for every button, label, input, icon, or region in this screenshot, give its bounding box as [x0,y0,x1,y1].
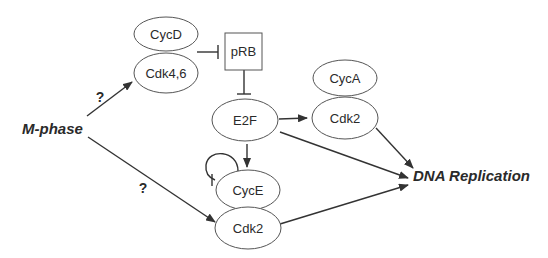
edge-e2f-to-cdk2a [279,118,307,119]
node-cyca: CycA [313,60,377,96]
edge-mphase-to-cdk46 [87,82,132,116]
node-e2f: E2F [212,99,278,141]
question-mark-lower: ? [139,180,148,196]
node-cdk2-a: Cdk2 [312,97,378,139]
e2f-label: E2F [233,113,257,128]
node-cycd: CycD [134,17,198,51]
cycd-label: CycD [150,27,182,42]
cyce-label: CycE [232,183,263,198]
prb-label: pRB [231,44,256,59]
cdk2-a-label: Cdk2 [330,111,360,126]
edge-mphase-to-cdk2e [88,137,215,222]
edge-cdk2e-to-dna [280,185,408,224]
cdk2-e-label: Cdk2 [233,221,263,236]
cyca-label: CycA [329,71,360,86]
edge-cdk2a-to-dna [376,128,413,168]
question-mark-upper: ? [96,89,105,105]
node-prb: pRB [225,33,262,70]
node-cdk46: Cdk4,6 [134,53,198,93]
mphase-label: M-phase [22,120,83,137]
dna-replication-label: DNA Replication [413,167,530,184]
pathway-diagram: CycD Cdk4,6 pRB E2F CycA Cdk2 CycE Cdk2 … [0,0,548,258]
edge-prb-inhibits-e2f [237,70,251,94]
node-cdk2-e: Cdk2 [215,207,281,249]
edge-cdk46-inhibits-prb [197,45,218,59]
cdk46-label: Cdk4,6 [145,66,186,81]
node-cyce: CycE [216,170,280,210]
